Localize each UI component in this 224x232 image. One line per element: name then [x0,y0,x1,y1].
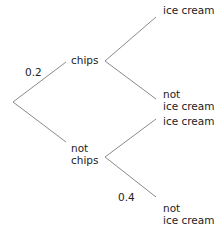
node-chips-not-ice-cream-line1: not [163,88,214,100]
branch-root-not-chips [13,102,66,142]
node-not-chips: not chips [71,142,98,166]
probability-not-chips-not-ice-cream: 0.4 [118,191,135,203]
node-not-chips-line1: not [71,142,98,154]
node-chips: chips [71,54,98,66]
probability-chips: 0.2 [25,66,42,78]
branch-chips-not-ice-cream [105,61,156,99]
node-not-chips-not-ice-cream: not ice cream [163,202,214,226]
branch-not-chips-ice-cream [105,119,156,157]
node-not-chips-ice-cream: ice cream [163,115,214,127]
node-not-chips-line2: chips [71,154,98,166]
node-chips-not-ice-cream: not ice cream [163,88,214,112]
node-not-chips-not-ice-cream-line2: ice cream [163,214,214,226]
node-chips-ice-cream: ice cream [163,4,214,16]
node-not-chips-not-ice-cream-line1: not [163,202,214,214]
branch-chips-ice-cream [105,17,156,61]
node-chips-not-ice-cream-line2: ice cream [163,100,214,112]
